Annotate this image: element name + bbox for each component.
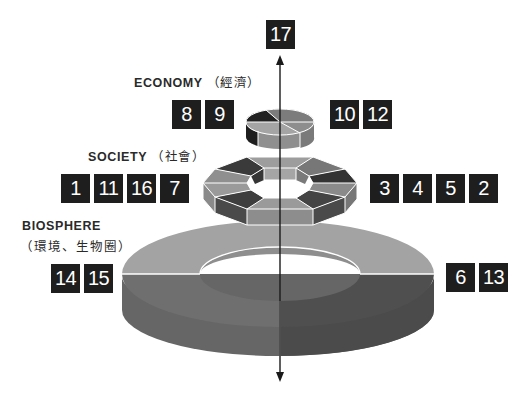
biosphere-ring [122, 221, 434, 356]
economy-left-badges: 8 9 [172, 100, 234, 129]
axis-badge-row: 17 [266, 20, 295, 49]
society-label-en: SOCIETY [88, 150, 147, 164]
society-right-badges: 3 4 5 2 [370, 174, 498, 203]
sdg-badge-13: 13 [479, 263, 508, 292]
economy-label-zh: （經濟） [207, 75, 261, 90]
sdg-badge-8: 8 [172, 100, 201, 129]
sdg-badge-16: 16 [127, 174, 156, 203]
biosphere-label-en: BIOSPHERE [22, 219, 101, 233]
sdg-badge-3: 3 [370, 174, 399, 203]
society-label-zh: （社會） [151, 149, 205, 164]
sdg-badge-14: 14 [51, 264, 80, 293]
biosphere-right-badges: 6 13 [446, 263, 508, 292]
biosphere-label: BIOSPHERE [22, 219, 101, 233]
sdg-badge-4: 4 [403, 174, 432, 203]
sdg-badge-10: 10 [330, 100, 359, 129]
sdg-badge-17: 17 [266, 20, 295, 49]
sdg-badge-7: 7 [160, 174, 189, 203]
sdg-badge-1: 1 [61, 174, 90, 203]
biosphere-left-badges: 14 15 [51, 264, 113, 293]
economy-label-en: ECONOMY [134, 76, 203, 90]
sdg-badge-6: 6 [446, 263, 475, 292]
sdg-badge-5: 5 [436, 174, 465, 203]
biosphere-label-zh: （環境、生物圈） [20, 236, 132, 255]
society-label: SOCIETY （社會） [88, 146, 205, 165]
economy-label: ECONOMY （經濟） [134, 72, 261, 91]
sdg-badge-9: 9 [205, 100, 234, 129]
arrow-up-icon [276, 55, 284, 65]
sdg-badge-2: 2 [469, 174, 498, 203]
sdg-badge-15: 15 [84, 264, 113, 293]
sdg-badge-11: 11 [94, 174, 123, 203]
arrow-down-icon [276, 372, 284, 382]
sdg-badge-12: 12 [363, 100, 392, 129]
society-left-badges: 1 11 16 7 [61, 174, 189, 203]
economy-right-badges: 10 12 [330, 100, 392, 129]
